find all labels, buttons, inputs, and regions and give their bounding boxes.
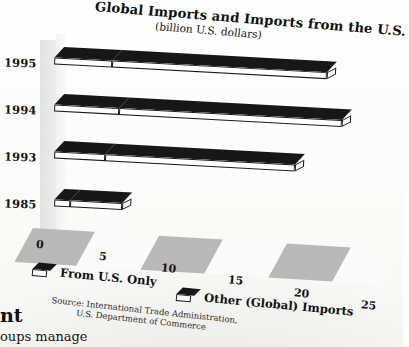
legend-swatch-from-us-only [32, 262, 56, 279]
chart-back-wall-shadow [56, 34, 66, 242]
chart-plot-area: 1995 1994 1993 1985 [0, 0, 403, 290]
x-tick-5: 5 [98, 250, 107, 264]
y-axis-label-1994: 1994 [4, 103, 37, 118]
legend-swatch-other-global-imports [176, 287, 200, 304]
y-axis-label-1995: 1995 [4, 56, 37, 71]
y-axis-label-1993: 1993 [4, 150, 37, 165]
x-tick-15: 15 [227, 273, 243, 287]
chart-floor-bands [11, 228, 399, 290]
x-tick-10: 10 [160, 261, 176, 275]
x-tick-25: 25 [360, 298, 376, 312]
page-text-fragment: nt oups manage [0, 304, 170, 345]
chart-back-wall [40, 40, 56, 240]
y-axis-label-1985: 1985 [4, 197, 37, 212]
page-heading-fragment: nt [0, 304, 170, 326]
page-body-fragment: oups manage [0, 329, 170, 345]
x-tick-0: 0 [35, 238, 44, 252]
